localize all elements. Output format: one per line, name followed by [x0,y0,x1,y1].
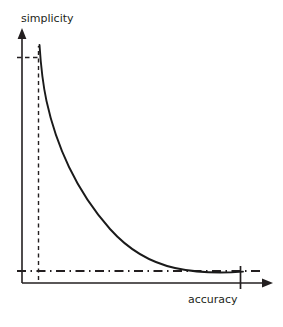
y-axis-label: simplicity [21,12,74,25]
simplicity-accuracy-tradeoff-chart: simplicity accuracy [0,0,283,327]
x-axis-label: accuracy [188,293,238,306]
